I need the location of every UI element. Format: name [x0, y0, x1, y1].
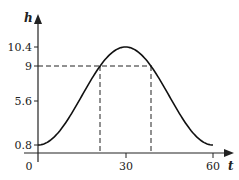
x-tick-label-30: 30	[119, 160, 133, 173]
y-tick-label-5.6: 5.6	[15, 95, 33, 108]
y-tick-label-0.8: 0.8	[15, 139, 33, 152]
y-tick-label-10.4: 10.4	[8, 41, 33, 54]
x-axis-label: t	[228, 159, 234, 173]
x-tick-label-60: 60	[206, 160, 220, 173]
x-axis-arrow-icon	[224, 149, 234, 157]
height-curve	[38, 47, 213, 145]
y-axis-arrow-icon	[34, 14, 42, 24]
chart: h t 10.4 9 5.6 0.8 0 30 60	[0, 0, 239, 180]
y-axis-label: h	[24, 11, 33, 25]
origin-label: 0	[26, 160, 33, 173]
y-tick-label-9: 9	[25, 60, 32, 73]
